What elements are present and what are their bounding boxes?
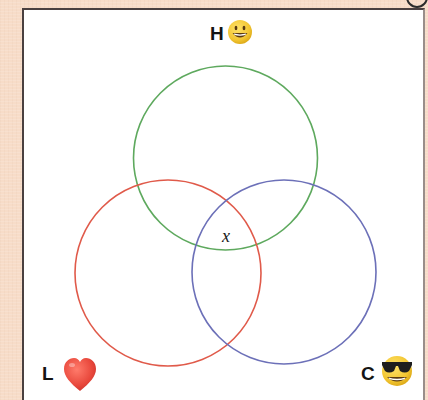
set-h-label: H [210, 24, 224, 43]
grinning-face-icon [228, 20, 252, 44]
red-heart-icon [64, 358, 96, 391]
intersection-label: x [221, 226, 230, 246]
set-h-circle [134, 66, 318, 250]
sunglasses-face-icon [382, 356, 412, 386]
set-c-circle [192, 180, 376, 364]
set-c-label: C [361, 364, 375, 383]
set-l-label: L [42, 364, 54, 383]
set-l-circle [75, 180, 261, 366]
